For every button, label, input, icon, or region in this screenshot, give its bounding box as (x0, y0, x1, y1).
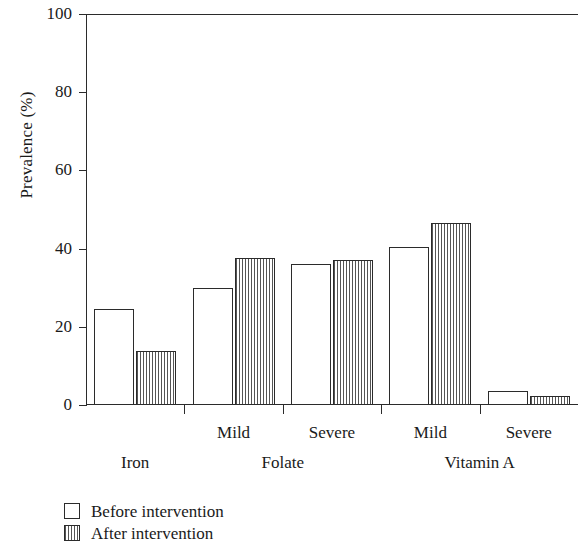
x-axis-tick (283, 405, 284, 414)
x-axis-sub-label: Mild (414, 423, 447, 443)
axis-spine-left (86, 14, 87, 405)
bar (136, 351, 176, 405)
x-axis-sub-label: Severe (309, 423, 355, 443)
bar (193, 288, 233, 405)
y-axis-tick-label: 100 (0, 5, 72, 22)
bar-chart-figure: Prevalence (%) 020406080100 MildSevereMi… (0, 0, 585, 546)
y-axis-tick-label: 60 (0, 161, 72, 178)
y-axis-tick-label: 20 (0, 318, 72, 335)
legend-label-after: After intervention (91, 525, 213, 542)
bar (94, 309, 134, 405)
bar (333, 260, 373, 405)
y-axis-tick (79, 249, 87, 250)
x-axis-group-label: Vitamin A (444, 453, 514, 473)
y-axis-tick (79, 170, 87, 171)
y-axis-tick-label: 40 (0, 240, 72, 257)
bar (530, 396, 570, 405)
bar (291, 264, 331, 405)
x-axis-group-label: Iron (121, 453, 149, 473)
y-axis-tick (79, 405, 87, 406)
hatched-square-icon (64, 525, 80, 541)
y-axis-tick (79, 327, 87, 328)
x-axis-tick (184, 405, 185, 414)
bar (431, 223, 471, 405)
legend-item-after: After intervention (64, 522, 224, 544)
x-axis-sub-label: Severe (506, 423, 552, 443)
x-axis-tick (480, 405, 481, 414)
y-axis-tick-label: 80 (0, 83, 72, 100)
axis-spine-top (86, 14, 578, 15)
x-axis-group-label: Folate (262, 453, 305, 473)
plot-area (86, 14, 578, 405)
legend-label-before: Before intervention (91, 503, 224, 520)
chart-legend: Before intervention After intervention (64, 500, 224, 544)
legend-item-before: Before intervention (64, 500, 224, 522)
open-square-icon (64, 503, 80, 519)
x-axis-tick (381, 405, 382, 414)
y-axis-tick-label: 0 (0, 396, 72, 413)
bar (235, 258, 275, 405)
y-axis-tick (79, 92, 87, 93)
y-axis-tick (79, 14, 87, 15)
bar (488, 391, 528, 405)
x-axis-sub-label: Mild (217, 423, 250, 443)
bar (389, 247, 429, 405)
